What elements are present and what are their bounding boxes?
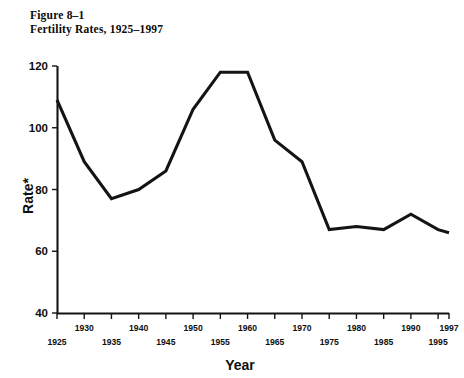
y-axis-title: Rate*	[20, 178, 36, 214]
x-tick-label: 1980	[347, 323, 366, 333]
y-tick-label: 60	[35, 245, 48, 257]
chart-svg: 406080100120 192519301935194019451950195…	[0, 0, 464, 378]
x-tick-label: 1925	[47, 337, 66, 347]
x-tick-label: 1975	[320, 337, 339, 347]
x-axis-title: Year	[225, 357, 255, 373]
line-chart: 406080100120 192519301935194019451950195…	[0, 0, 464, 378]
x-tick-label: 1990	[401, 323, 420, 333]
fertility-rate-line	[57, 72, 449, 233]
x-tick-label: 1955	[211, 337, 230, 347]
x-tick-label: 1965	[265, 337, 284, 347]
x-tick-label: 1930	[75, 323, 94, 333]
x-tick-label: 1950	[184, 323, 203, 333]
y-tick-label: 100	[29, 122, 48, 134]
x-tick-label: 1970	[292, 323, 311, 333]
x-tick-label: 1945	[156, 337, 175, 347]
x-axis	[57, 313, 449, 319]
x-tick-label: 1997	[439, 323, 458, 333]
y-tick-group	[52, 66, 57, 313]
x-tick-label: 1940	[129, 323, 148, 333]
x-tick-label: 1960	[238, 323, 257, 333]
x-tick-label: 1995	[429, 337, 448, 347]
x-tick-label: 1985	[374, 337, 393, 347]
y-tick-label: 120	[29, 60, 48, 72]
y-tick-label: 40	[35, 307, 48, 319]
x-tick-labels: 1925193019351940194519501955196019651970…	[47, 323, 458, 347]
x-tick-label: 1935	[102, 337, 121, 347]
y-tick-label: 80	[35, 184, 48, 196]
